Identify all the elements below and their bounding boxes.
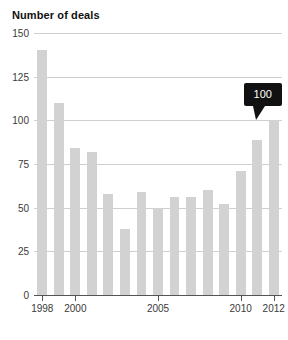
bar <box>137 192 147 295</box>
x-tick-label: 2000 <box>64 303 86 314</box>
x-tick <box>158 295 159 301</box>
x-tick-label: 2010 <box>230 303 252 314</box>
x-tick-label: 1998 <box>31 303 53 314</box>
y-tick-label: 100 <box>12 115 29 126</box>
y-tick-label: 25 <box>18 246 29 257</box>
y-tick-label: 125 <box>12 71 29 82</box>
value-callout: 100 <box>244 83 282 106</box>
bar <box>37 50 47 295</box>
x-tick-label: 2012 <box>263 303 285 314</box>
x-tick <box>241 295 242 301</box>
bar <box>236 171 246 295</box>
bar <box>186 197 196 295</box>
x-tick <box>274 295 275 301</box>
bar <box>269 120 279 295</box>
bar <box>70 148 80 295</box>
y-tick-label: 75 <box>18 159 29 170</box>
y-tick-label: 0 <box>23 290 29 301</box>
value-callout-pointer <box>253 106 265 120</box>
x-tick-label: 2005 <box>147 303 169 314</box>
x-axis: 19982000200520102012 <box>34 295 282 325</box>
bar <box>252 140 262 295</box>
value-callout-label: 100 <box>244 83 282 106</box>
plot-area: 0255075100125150 <box>34 33 282 295</box>
bar-chart: Number of deals 0255075100125150 1998200… <box>0 0 288 340</box>
bar <box>103 194 113 295</box>
bar <box>170 197 180 295</box>
bar <box>87 152 97 295</box>
bar <box>120 229 130 295</box>
bar <box>54 103 64 295</box>
x-tick <box>75 295 76 301</box>
y-tick-label: 50 <box>18 202 29 213</box>
y-tick-label: 150 <box>12 28 29 39</box>
bar <box>153 208 163 295</box>
bar <box>203 190 213 295</box>
chart-title: Number of deals <box>12 9 100 21</box>
bar <box>219 204 229 295</box>
x-tick <box>42 295 43 301</box>
bars-layer <box>34 33 282 295</box>
